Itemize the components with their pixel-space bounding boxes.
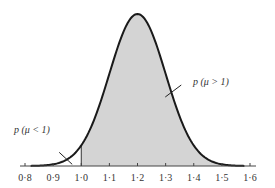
x-tick-label: 1·5 — [215, 172, 228, 183]
x-tick-label: 1·3 — [159, 172, 172, 183]
x-tick-label: 1·0 — [75, 172, 88, 183]
annotation-p-mu-gt-1: p (μ > 1) — [192, 76, 230, 88]
x-tick-label: 1·1 — [103, 172, 116, 183]
x-tick-label: 0·9 — [46, 172, 59, 183]
x-tick-label: 1·2 — [131, 172, 144, 183]
x-tick-label: 0·8 — [18, 172, 31, 183]
x-tick-label: 1·4 — [187, 172, 200, 183]
shaded-area-mu-gt-1 — [81, 14, 244, 166]
normal-distribution-chart: 0·80·91·01·11·21·31·41·51·6 p (μ < 1)p (… — [0, 0, 275, 188]
x-tick-label: 1·6 — [243, 172, 256, 183]
annotation-p-mu-lt-1: p (μ < 1) — [13, 124, 51, 136]
